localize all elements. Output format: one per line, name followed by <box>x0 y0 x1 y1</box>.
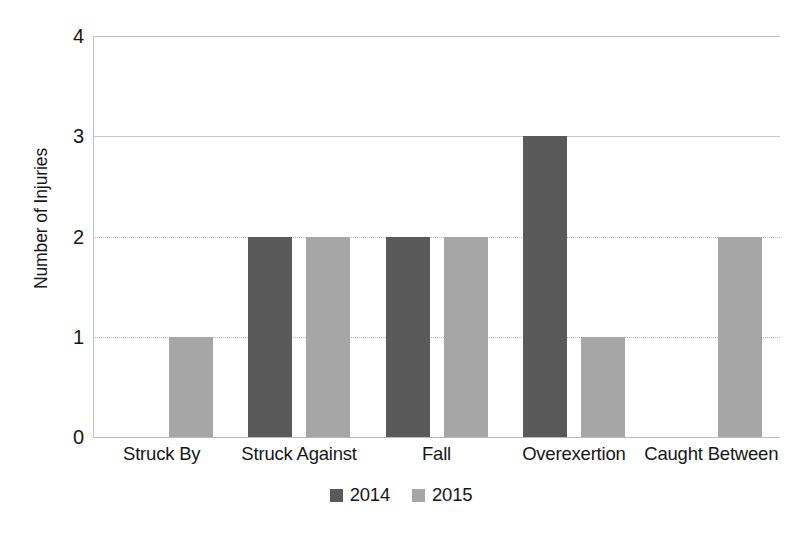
legend-entry-2015[interactable]: 2015 <box>412 486 472 505</box>
y-axis-tick-labels: 01234 <box>36 0 93 535</box>
bar-2015-overexertion <box>581 337 625 437</box>
bar-2014-struck-against <box>248 237 292 438</box>
legend-swatch-icon-2015 <box>412 489 425 502</box>
bar-2015-struck-by <box>169 337 213 437</box>
bar-chart: Number of Injuries 01234 Struck ByStruck… <box>0 0 802 535</box>
x-tick-label-fall: Fall <box>368 443 505 465</box>
gridline-0 <box>93 437 780 438</box>
gridline-2 <box>93 237 780 238</box>
x-tick-label-caught-between: Caught Between <box>643 443 780 465</box>
legend-swatch-icon-2014 <box>330 489 343 502</box>
gridline-3 <box>93 136 780 137</box>
plot-area <box>93 36 780 437</box>
x-axis-tick-labels: Struck ByStruck AgainstFallOverexertionC… <box>93 443 780 477</box>
legend-label-2015: 2015 <box>432 486 472 505</box>
y-tick-label-2: 2 <box>36 227 93 247</box>
bar-2014-overexertion <box>523 136 567 437</box>
legend-entry-2014[interactable]: 2014 <box>330 486 390 505</box>
bar-2015-struck-against <box>306 237 350 438</box>
x-tick-label-struck-by: Struck By <box>93 443 230 465</box>
x-tick-label-struck-against: Struck Against <box>230 443 367 465</box>
y-tick-label-1: 1 <box>36 327 93 347</box>
bar-2015-fall <box>444 237 488 438</box>
legend-label-2014: 2014 <box>350 486 390 505</box>
y-tick-label-0: 0 <box>36 427 93 447</box>
chart-legend: 20142015 <box>0 486 802 505</box>
gridline-4 <box>93 36 780 37</box>
y-tick-label-4: 4 <box>36 26 93 46</box>
bar-2015-caught-between <box>718 237 762 438</box>
x-tick-label-overexertion: Overexertion <box>505 443 642 465</box>
y-tick-label-3: 3 <box>36 126 93 146</box>
bar-2014-fall <box>386 237 430 438</box>
